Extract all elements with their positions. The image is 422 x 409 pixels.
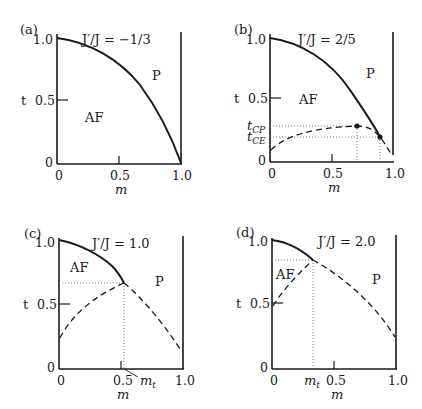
ytick-05-a: 0.5 [35, 93, 55, 108]
region-p-d: P [372, 272, 381, 287]
panel-d: (d) 1.0 0.5 t 0 0 0.5 1.0 m mt J′/J = 2.… [236, 225, 408, 402]
dashed-left-c [60, 283, 124, 338]
title-a: J′/J = −1/3 [80, 32, 151, 47]
xlabel-b: m [328, 180, 340, 195]
panel-c: (c) 1.0 0.5 t 0 0 0.5 1.0 m mt J′/J = 1.… [23, 226, 195, 402]
xtick-05-c: 0.5 [113, 373, 133, 388]
xtick-05-b: 0.5 [323, 166, 343, 181]
title-d: J′/J = 2.0 [316, 234, 376, 249]
panel-a: (a) 1.0 0.5 t 0 0 0.5 1.0 m J′/J = −1/3 … [20, 22, 192, 197]
xtick-1-c: 1.0 [175, 373, 195, 388]
xtick-0-b: 0 [268, 166, 276, 181]
xtick-0-a: 0 [55, 168, 63, 183]
ytick-05-d: 0.5 [250, 296, 270, 311]
ylabel-b: t [234, 91, 240, 106]
region-p-b: P [366, 66, 375, 81]
xtick-0-d: 0 [270, 373, 278, 388]
mt-label-d: mt [304, 373, 320, 390]
region-af-d: AF [275, 267, 294, 282]
boundary-curve-d [272, 240, 313, 260]
region-af-c: AF [69, 260, 88, 275]
xtick-1-d: 1.0 [388, 373, 408, 388]
boundary-curve-a [57, 38, 181, 163]
panel-b: (b) 1.0 0.5 t 0 0 0.5 1.0 m J′/J = 2/5 P… [234, 22, 405, 195]
ytick-1-d: 1.0 [248, 234, 268, 249]
coexistence-curve-b [271, 126, 392, 156]
ylabel-a: t [21, 93, 27, 108]
critical-end-point-ce [377, 134, 382, 139]
xlabel-c: m [117, 387, 129, 402]
region-af-a: AF [84, 110, 103, 125]
region-p-a: P [152, 68, 161, 83]
boundary-curve-b [270, 38, 380, 137]
xtick-05-d: 0.5 [326, 373, 346, 388]
xtick-1-b: 1.0 [385, 166, 405, 181]
dashed-right-d [313, 260, 395, 337]
region-p-c: P [155, 274, 164, 289]
ytick-0-d: 0 [260, 360, 268, 375]
ytick-0-c: 0 [47, 360, 55, 375]
xtick-05-a: 0.5 [110, 168, 130, 183]
xtick-1-a: 1.0 [172, 168, 192, 183]
xtick-0-c: 0 [57, 373, 65, 388]
ytick-05-c: 0.5 [37, 297, 57, 312]
xlabel-d: m [331, 387, 343, 402]
ytick-05-b: 0.5 [248, 91, 268, 106]
mt-label-c: mt [140, 373, 156, 390]
critical-point-cp [354, 123, 359, 128]
title-c: J′/J = 1.0 [90, 236, 150, 251]
ytick-0-b: 0 [258, 153, 266, 168]
ylabel-d: t [236, 296, 242, 311]
title-b: J′/J = 2/5 [296, 32, 356, 47]
region-af-b: AF [298, 92, 317, 107]
ytick-1-a: 1.0 [33, 32, 53, 47]
ytick-1-b: 1.0 [246, 32, 266, 47]
dashed-right-c [124, 283, 182, 352]
xlabel-a: m [115, 182, 127, 197]
ytick-1-c: 1.0 [35, 235, 55, 250]
ylabel-c: t [23, 297, 29, 312]
ytick-0-a: 0 [45, 155, 53, 170]
phase-diagram-figure: (a) 1.0 0.5 t 0 0 0.5 1.0 m J′/J = −1/3 … [0, 0, 422, 409]
